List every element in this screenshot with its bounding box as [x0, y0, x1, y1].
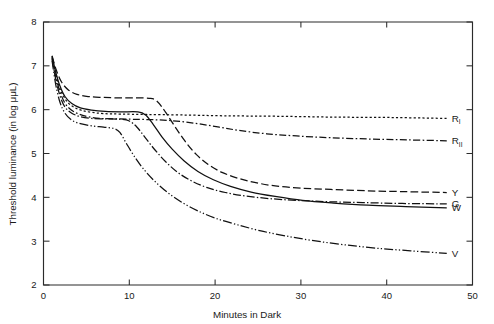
curve-v [52, 61, 447, 254]
y-tick-label: 2 [31, 279, 36, 290]
chart-canvas: 01020304050 2345678 RIRIIYGWV Minutes in… [0, 0, 494, 324]
y-tick-label: 7 [31, 60, 36, 71]
y-tick-label: 3 [31, 236, 36, 247]
x-tick-label: 10 [124, 290, 135, 301]
y-tick-label: 5 [31, 148, 36, 159]
series-label-w: W [452, 202, 462, 213]
series-labels: RIRIIYGWV [452, 113, 463, 259]
y-axis-title: Threshold luminance (in log μμL) [7, 82, 18, 225]
curve-r-i [52, 58, 447, 118]
series-curves [52, 56, 447, 254]
series-label-y: Y [452, 187, 459, 198]
y-tick-label: 4 [31, 192, 36, 203]
series-label-r-i: RI [452, 113, 461, 126]
series-label-v: V [452, 248, 459, 259]
x-axis-ticks: 01020304050 [41, 22, 478, 301]
x-axis-title: Minutes in Dark [213, 309, 281, 320]
series-label-r-ii: RII [452, 135, 463, 148]
x-tick-label: 30 [296, 290, 307, 301]
x-tick-label: 0 [41, 290, 46, 301]
dark-adaptation-chart: 01020304050 2345678 RIRIIYGWV Minutes in… [0, 0, 494, 324]
plot-frame [44, 22, 473, 285]
x-tick-label: 50 [467, 290, 478, 301]
y-tick-label: 8 [31, 16, 36, 27]
y-axis-ticks: 2345678 [31, 16, 472, 290]
series-sublabel: I [459, 118, 461, 125]
x-tick-label: 20 [210, 290, 221, 301]
curve-y [52, 56, 447, 192]
series-sublabel: II [459, 141, 463, 148]
curve-r-ii [52, 57, 447, 141]
x-tick-label: 40 [381, 290, 392, 301]
y-tick-label: 6 [31, 104, 36, 115]
